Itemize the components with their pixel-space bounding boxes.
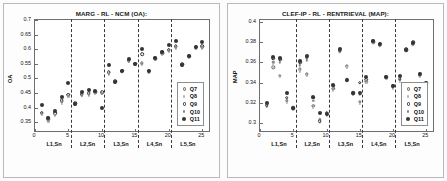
data-point-q11	[398, 74, 402, 78]
legend-label: Q11	[414, 116, 424, 122]
legend-marker	[407, 87, 410, 90]
legend-marker	[183, 87, 186, 90]
legend-item-q11[interactable]: Q11	[181, 115, 200, 123]
chart-legend[interactable]: Q7Q8Q9Q10Q11	[401, 82, 428, 126]
legend-label: Q10	[414, 109, 424, 115]
y-tick-mark	[35, 35, 38, 36]
y-tick-mark	[260, 103, 263, 104]
plot-area-right: Q7Q8Q9Q10Q11	[259, 19, 434, 132]
data-point-q10	[279, 61, 281, 63]
x-axis-tick-label: 5	[291, 132, 294, 138]
data-point-q8	[332, 90, 334, 92]
legend-item-q8[interactable]: Q8	[181, 93, 200, 101]
y-axis-tick-label: 0.45	[7, 89, 31, 95]
legend-item-q7[interactable]: Q7	[181, 85, 200, 93]
legend-item-q8[interactable]: Q8	[405, 93, 424, 101]
x-group-label: L1,Sn	[46, 141, 61, 147]
y-axis-tick-label: 0.4	[232, 18, 256, 24]
legend-item-q11[interactable]: Q11	[405, 115, 424, 123]
y-axis-tick-label: 0.55	[7, 60, 31, 66]
x-tick-mark	[360, 129, 361, 132]
data-point-q11	[140, 47, 144, 51]
data-point-q11	[298, 59, 302, 63]
x-group-label: L5,Sn	[404, 141, 419, 147]
group-divider-line	[138, 19, 139, 148]
data-point-q9	[358, 81, 362, 85]
x-group-label: L4,Sn	[147, 141, 162, 147]
legend-label: Q7	[190, 86, 197, 92]
x-group-label: L5,Sn	[180, 141, 195, 147]
y-tick-mark	[35, 93, 38, 94]
data-point-q11	[80, 90, 84, 94]
small-dot-gray-icon	[405, 110, 412, 112]
legend-marker	[183, 102, 187, 106]
legend-label: Q8	[414, 93, 421, 99]
x-axis-tick-label: 15	[356, 132, 362, 138]
data-point-q8	[279, 75, 281, 77]
y-tick-mark	[260, 62, 263, 63]
data-point-q11	[364, 75, 368, 79]
group-divider-line	[71, 19, 72, 148]
y-tick-mark	[35, 49, 38, 50]
data-point-q11	[46, 116, 50, 120]
chart-panel-left: MARG - RL - NCM (OA): Q7Q8Q9Q10Q11 0.350…	[3, 3, 220, 178]
data-point-q11	[345, 78, 349, 82]
small-dot-light-icon	[181, 95, 188, 97]
data-point-q11	[411, 41, 415, 45]
chart-title-left: MARG - RL - NCM (OA):	[4, 10, 219, 17]
data-point-q11	[271, 55, 275, 59]
data-point-q11	[371, 39, 375, 43]
data-point-q9	[140, 52, 144, 56]
legend-marker	[183, 110, 185, 112]
group-divider-line	[395, 19, 396, 148]
y-axis-label: OA	[7, 74, 13, 82]
data-point-q11	[194, 45, 198, 49]
y-axis-tick-label: 0.32	[232, 99, 256, 105]
chart-title-right: CLEF-IP - RL - RENTRIEVAL (MAP):	[228, 10, 443, 17]
group-divider-line	[296, 19, 297, 148]
legend-label: Q9	[190, 101, 197, 107]
data-point-q11	[160, 50, 164, 54]
legend-item-q9[interactable]: Q9	[181, 100, 200, 108]
x-axis-tick-label: 0	[258, 132, 261, 138]
legend-item-q7[interactable]: Q7	[405, 85, 424, 93]
y-tick-mark	[260, 42, 263, 43]
y-axis-tick-label: 0.4	[7, 104, 31, 110]
chart-panel-right: CLEF-IP - RL - RENTRIEVAL (MAP): Q7Q8Q9Q…	[227, 3, 444, 178]
data-point-q11	[351, 91, 355, 95]
y-axis-tick-label: 0.65	[7, 31, 31, 37]
data-point-q11	[53, 109, 57, 113]
y-axis-tick-label: 0.35	[7, 118, 31, 124]
data-point-q11	[418, 72, 422, 76]
x-axis-tick-label: 20	[165, 132, 171, 138]
open-circle-gray-icon	[181, 87, 188, 90]
group-divider-line	[329, 19, 330, 148]
x-group-label: L2,Sn	[305, 141, 320, 147]
legend-marker	[407, 102, 411, 106]
small-dot-gray-icon	[181, 110, 188, 112]
filled-circle-dark-icon	[181, 117, 188, 121]
data-point-q11	[113, 80, 117, 84]
data-point-q11	[378, 42, 382, 46]
y-tick-mark	[35, 122, 38, 123]
open-circle-white-icon	[405, 102, 412, 106]
legend-marker	[406, 117, 410, 121]
x-group-label: L3,Sn	[338, 141, 353, 147]
data-point-q11	[174, 39, 178, 43]
legend-item-q10[interactable]: Q10	[181, 108, 200, 116]
x-tick-mark	[327, 129, 328, 132]
legend-item-q9[interactable]: Q9	[405, 100, 424, 108]
data-point-q11	[265, 101, 269, 105]
data-point-q10	[272, 61, 274, 63]
y-tick-mark	[35, 78, 38, 79]
y-tick-mark	[260, 83, 263, 84]
x-tick-mark	[202, 129, 203, 132]
y-axis-tick-label: 0.36	[232, 58, 256, 64]
y-axis-label: MAP	[232, 70, 238, 82]
chart-legend[interactable]: Q7Q8Q9Q10Q11	[177, 82, 204, 126]
data-point-q11	[338, 47, 342, 51]
data-point-q11	[87, 88, 91, 92]
x-tick-mark	[169, 129, 170, 132]
data-point-q8	[305, 74, 307, 76]
legend-item-q10[interactable]: Q10	[405, 108, 424, 116]
